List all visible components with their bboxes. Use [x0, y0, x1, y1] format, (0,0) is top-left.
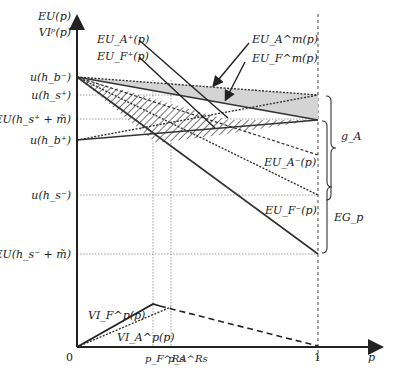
label-vi-f: VI_F^p(p)	[88, 309, 145, 322]
x-axis-label: p	[368, 351, 375, 364]
label-vi-a: VI_A^p(p)	[117, 331, 175, 344]
label-g-a: g_A	[341, 130, 362, 143]
label-eu-a-minus: EU_A⁻(p)	[263, 156, 316, 169]
y-tick-eu-hs-minus-m: EU(h_s⁻ + m̃)	[0, 248, 71, 261]
label-eu-f-minus: EU_F⁻(p)	[264, 204, 317, 217]
y-axis-label-vi: VIᵖ(p)	[39, 26, 71, 39]
y-tick-u-hb-plus: u(h_b⁺)	[30, 134, 71, 147]
y-axis-label-eu: EU(p)	[37, 10, 71, 23]
y-tick-u-hb-minus: u(h_b⁻)	[30, 71, 71, 84]
y-tick-u-hs-minus: u(h_s⁻)	[31, 189, 71, 202]
x-one-label: 1	[314, 351, 321, 364]
y-tick-eu-hs-plus-m: EU(h_s⁺ + m̃)	[0, 113, 71, 126]
label-eu-f-plus: EU_F⁺(p)	[96, 50, 149, 63]
x-tick-pa: p_A^Rs	[168, 353, 208, 365]
curves	[77, 40, 318, 347]
label-eu-f-m: EU_F^m(p)	[251, 52, 318, 65]
expected-utility-diagram: EU(p) VIᵖ(p) p 0 1 u(h_b⁻) u(h_s⁺) EU(h_…	[0, 0, 396, 377]
curve-vi-decline	[160, 306, 318, 346]
origin-label: 0	[66, 351, 73, 364]
label-eu-a-plus: EU_A⁺(p)	[96, 33, 149, 46]
label-eg-p: EG_p	[333, 211, 363, 224]
label-eu-a-m: EU_A^m(p)	[251, 33, 318, 46]
y-tick-u-hs-plus: u(h_s⁺)	[31, 89, 71, 102]
